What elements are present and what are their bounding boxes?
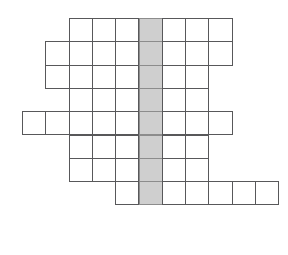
crossword-cell[interactable] [162, 135, 186, 159]
crossword-puzzle [0, 0, 288, 255]
crossword-cell[interactable] [208, 18, 232, 42]
crossword-cell-highlighted[interactable] [139, 18, 163, 42]
crossword-cell[interactable] [162, 158, 186, 182]
crossword-cell[interactable] [22, 111, 46, 135]
crossword-cell[interactable] [185, 18, 209, 42]
crossword-cell[interactable] [69, 18, 93, 42]
crossword-cell[interactable] [185, 158, 209, 182]
crossword-cell[interactable] [92, 158, 116, 182]
crossword-cell[interactable] [69, 158, 93, 182]
crossword-cell[interactable] [162, 181, 186, 205]
crossword-cell[interactable] [115, 65, 139, 89]
crossword-cell[interactable] [185, 135, 209, 159]
crossword-cell[interactable] [115, 18, 139, 42]
crossword-cell[interactable] [45, 41, 69, 65]
crossword-cell[interactable] [92, 18, 116, 42]
crossword-cell[interactable] [185, 111, 209, 135]
crossword-cell-highlighted[interactable] [139, 181, 163, 205]
crossword-cell[interactable] [45, 65, 69, 89]
crossword-cell[interactable] [69, 65, 93, 89]
crossword-cell-highlighted[interactable] [139, 135, 163, 159]
crossword-cell-highlighted[interactable] [139, 41, 163, 65]
crossword-cell[interactable] [208, 41, 232, 65]
crossword-cell[interactable] [69, 135, 93, 159]
crossword-cell[interactable] [185, 181, 209, 205]
crossword-cell[interactable] [185, 88, 209, 112]
crossword-cell[interactable] [69, 111, 93, 135]
crossword-cell[interactable] [255, 181, 279, 205]
crossword-cell[interactable] [45, 111, 69, 135]
crossword-cell-highlighted[interactable] [139, 158, 163, 182]
crossword-cell[interactable] [162, 65, 186, 89]
crossword-cell[interactable] [115, 135, 139, 159]
crossword-cell[interactable] [162, 41, 186, 65]
crossword-cell[interactable] [92, 41, 116, 65]
crossword-cell[interactable] [208, 111, 232, 135]
crossword-cell[interactable] [232, 181, 256, 205]
crossword-cell-highlighted[interactable] [139, 88, 163, 112]
crossword-cell[interactable] [208, 181, 232, 205]
crossword-cell[interactable] [162, 111, 186, 135]
crossword-cell[interactable] [115, 41, 139, 65]
crossword-cell[interactable] [115, 181, 139, 205]
crossword-cell[interactable] [69, 88, 93, 112]
crossword-cell[interactable] [115, 88, 139, 112]
crossword-cell[interactable] [69, 41, 93, 65]
crossword-grid[interactable] [0, 0, 288, 255]
crossword-cell-highlighted[interactable] [139, 65, 163, 89]
crossword-cell-highlighted[interactable] [139, 111, 163, 135]
crossword-cell[interactable] [92, 111, 116, 135]
crossword-cell[interactable] [92, 88, 116, 112]
crossword-cell[interactable] [162, 88, 186, 112]
crossword-cell[interactable] [185, 41, 209, 65]
crossword-cell[interactable] [115, 111, 139, 135]
crossword-cell[interactable] [185, 65, 209, 89]
crossword-cell[interactable] [115, 158, 139, 182]
crossword-cell[interactable] [92, 135, 116, 159]
crossword-cell[interactable] [162, 18, 186, 42]
crossword-cell[interactable] [92, 65, 116, 89]
